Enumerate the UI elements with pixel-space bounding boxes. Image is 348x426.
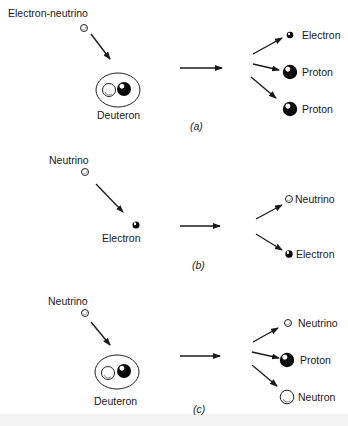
proton-particle <box>283 102 297 116</box>
incoming-particle-label: Neutrino <box>48 295 88 307</box>
proton-particle <box>280 353 294 367</box>
neutrino-particle <box>286 196 293 203</box>
electron-particle <box>133 222 140 229</box>
product-label: Electron <box>302 29 341 41</box>
panel-caption: (c) <box>193 403 205 415</box>
target-label: Deuteron <box>94 395 137 407</box>
product-label: Proton <box>300 354 331 366</box>
neutron-particle <box>103 84 116 97</box>
product-arrow-1 <box>253 328 278 342</box>
incoming-arrow <box>96 184 123 212</box>
product-label: Neutrino <box>298 317 338 329</box>
panel-caption: (b) <box>192 259 205 271</box>
neutrino-particle <box>82 169 89 176</box>
product-label: Neutrino <box>295 193 335 205</box>
incoming-particle-label: Neutrino <box>49 154 89 166</box>
product-arrow-1 <box>253 38 282 54</box>
proton-particle <box>117 364 131 378</box>
target-label: Deuteron <box>97 109 140 121</box>
neutrino-particle <box>81 25 88 32</box>
target-label: Electron <box>102 232 141 244</box>
product-arrow-1 <box>256 205 282 219</box>
product-arrow-3 <box>252 365 277 386</box>
panel-a <box>81 25 298 117</box>
product-arrow-3 <box>251 77 276 98</box>
incoming-arrow <box>91 34 110 59</box>
product-label: Electron <box>296 248 335 260</box>
product-label: Proton <box>302 66 333 78</box>
neutron-particle <box>102 367 115 380</box>
incoming-particle-label: Electron-neutrino <box>8 7 88 19</box>
neutrino-particle <box>285 320 292 327</box>
product-arrow-2 <box>253 64 279 70</box>
proton-particle <box>117 82 131 96</box>
panel-c <box>82 310 295 404</box>
panel-b <box>82 169 293 258</box>
product-label: Neutron <box>298 391 335 403</box>
product-label: Proton <box>302 103 333 115</box>
proton-particle <box>283 65 297 79</box>
panel-caption: (a) <box>190 120 203 132</box>
product-arrow-2 <box>256 234 282 250</box>
incoming-arrow <box>91 322 110 345</box>
neutrino-particle <box>82 310 89 317</box>
diagram-canvas <box>0 0 348 426</box>
product-arrow-2 <box>252 352 279 358</box>
electron-particle <box>285 250 292 257</box>
electron-particle <box>287 32 294 39</box>
